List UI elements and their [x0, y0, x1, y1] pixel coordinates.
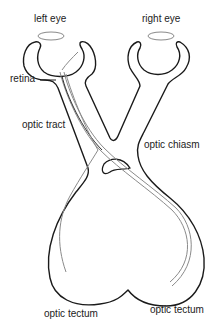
label-right-eye: right eye: [142, 13, 181, 24]
right-eye-lens: [148, 32, 174, 40]
label-optic-tract: optic tract: [22, 119, 66, 130]
label-retina: retina: [10, 73, 35, 84]
brain-outline: [23, 42, 204, 306]
label-optic-chiasm: optic chiasm: [144, 139, 200, 150]
label-optic-tectum-left: optic tectum: [44, 308, 98, 319]
label-optic-tectum-right: optic tectum: [150, 304, 204, 315]
nerve-fiber-1: [60, 72, 188, 282]
nerve-fiber-2: [64, 72, 191, 286]
nerve-fiber-4: [60, 74, 98, 272]
label-left-eye: left eye: [34, 13, 67, 24]
left-eye-lens: [38, 32, 64, 40]
left-retina-line: [62, 52, 78, 70]
chiasm-center: [102, 159, 130, 173]
visual-pathway-diagram: left eye right eye retina optic tract op…: [0, 0, 219, 330]
